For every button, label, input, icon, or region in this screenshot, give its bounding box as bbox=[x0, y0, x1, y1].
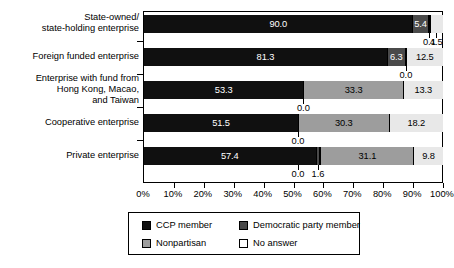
legend-label-nonpartisan: Nonpartisan bbox=[156, 238, 206, 248]
x-axis-tick-label: 20% bbox=[193, 189, 212, 199]
legend-swatch-ccp-member bbox=[142, 221, 151, 230]
legend-item-nonpartisan: Nonpartisan bbox=[142, 238, 206, 248]
x-axis-tick-label: 100% bbox=[430, 189, 454, 199]
callout-value-label: 0.0 bbox=[399, 70, 412, 80]
bar-segment: 33.3 bbox=[303, 81, 403, 99]
segment-value-label: 9.8 bbox=[422, 151, 435, 161]
bar-segment: 53.3 bbox=[144, 81, 303, 99]
y-axis-tick bbox=[137, 74, 144, 75]
y-axis-tick bbox=[137, 140, 144, 141]
chart-legend: CCP member Democratic party member Nonpa… bbox=[128, 212, 360, 255]
bar-segment: 12.5 bbox=[406, 48, 443, 66]
legend-label-democratic-party-member: Democratic party member bbox=[253, 220, 360, 230]
category-label: State-owned/ state-holding enterprise bbox=[42, 12, 139, 34]
bar-segment: 51.5 bbox=[144, 114, 298, 132]
callout-value-label: 4.5 bbox=[430, 37, 443, 47]
bar-segment: 30.3 bbox=[298, 114, 389, 132]
x-axis-tick bbox=[234, 183, 235, 188]
segment-value-label: 31.1 bbox=[359, 151, 377, 161]
segment-value-label: 81.3 bbox=[257, 52, 275, 62]
legend-label-no-answer: No answer bbox=[253, 238, 297, 248]
category-label: Cooperative enterprise bbox=[45, 117, 139, 128]
bar-segment: 9.8 bbox=[413, 147, 442, 165]
x-axis-tick-label: 70% bbox=[343, 189, 362, 199]
x-axis-tick-label: 50% bbox=[283, 189, 302, 199]
bar-segment: 90.0 bbox=[144, 15, 412, 33]
x-axis-tick-label: 40% bbox=[253, 189, 272, 199]
bar-segment: 5.4 bbox=[412, 15, 428, 33]
bar-segment: 13.3 bbox=[403, 81, 443, 99]
bar-segment: 6.3 bbox=[387, 48, 406, 66]
legend-swatch-no-answer bbox=[239, 239, 248, 248]
callout-value-label: 0.0 bbox=[297, 103, 310, 113]
x-axis-tick bbox=[204, 183, 205, 188]
stacked-bar-chart: State-owned/ state-holding enterprise90.… bbox=[0, 0, 454, 268]
segment-value-label: 33.3 bbox=[345, 85, 363, 95]
segment-value-label: 90.0 bbox=[269, 19, 287, 29]
x-axis-tick bbox=[353, 183, 354, 188]
y-axis-tick bbox=[137, 107, 144, 108]
x-axis-tick bbox=[323, 183, 324, 188]
bar-segment: 31.1 bbox=[320, 147, 413, 165]
callout-value-label: 0.0 bbox=[292, 169, 305, 179]
x-axis-tick-label: 80% bbox=[373, 189, 392, 199]
bar-row: 53.333.313.3 bbox=[144, 81, 443, 99]
legend-item-ccp-member: CCP member bbox=[142, 220, 212, 230]
x-axis-tick bbox=[443, 183, 444, 188]
segment-value-label: 57.4 bbox=[221, 151, 239, 161]
segment-value-label: 30.3 bbox=[335, 118, 353, 128]
bar-row: 90.05.4 bbox=[144, 15, 443, 33]
bar-row: 81.36.312.5 bbox=[144, 48, 443, 66]
x-axis-tick bbox=[264, 183, 265, 188]
callout-value-label: 1.6 bbox=[312, 169, 325, 179]
x-axis-tick bbox=[294, 183, 295, 188]
category-label: Enterprise with fund from Hong Kong, Mac… bbox=[36, 73, 139, 106]
segment-value-label: 5.4 bbox=[414, 19, 427, 29]
segment-value-label: 13.3 bbox=[414, 85, 432, 95]
legend-item-no-answer: No answer bbox=[239, 238, 297, 248]
segment-value-label: 53.3 bbox=[215, 85, 233, 95]
bar-segment bbox=[430, 15, 443, 33]
segment-value-label: 12.5 bbox=[416, 52, 434, 62]
callout-value-label: 0.0 bbox=[292, 136, 305, 146]
x-axis-tick-label: 0% bbox=[136, 189, 149, 199]
x-axis-tick bbox=[383, 183, 384, 188]
bar-row: 57.431.19.8 bbox=[144, 147, 443, 165]
bar-segment: 18.2 bbox=[389, 114, 443, 132]
x-axis-tick bbox=[174, 183, 175, 188]
segment-value-label: 6.3 bbox=[390, 52, 403, 62]
legend-label-ccp-member: CCP member bbox=[156, 220, 212, 230]
category-label: Private enterprise bbox=[66, 150, 139, 161]
bar-segment: 81.3 bbox=[144, 48, 387, 66]
x-axis-tick bbox=[413, 183, 414, 188]
segment-value-label: 51.5 bbox=[212, 118, 230, 128]
x-axis-labels: 0%10%20%30%40%50%60%70%80%90%100% bbox=[143, 189, 443, 201]
legend-item-democratic-party-member: Democratic party member bbox=[239, 220, 360, 230]
bar-segment: 57.4 bbox=[144, 147, 316, 165]
x-axis-tick-label: 90% bbox=[403, 189, 422, 199]
bar-row: 51.530.318.2 bbox=[144, 114, 443, 132]
legend-swatch-nonpartisan bbox=[142, 239, 151, 248]
x-axis-tick-label: 30% bbox=[223, 189, 242, 199]
segment-value-label: 18.2 bbox=[407, 118, 425, 128]
x-axis-tick-label: 10% bbox=[164, 189, 183, 199]
legend-swatch-democratic-party-member bbox=[239, 221, 248, 230]
x-axis-tick-label: 60% bbox=[313, 189, 332, 199]
y-axis-tick bbox=[137, 41, 144, 42]
category-label: Foreign funded enterprise bbox=[33, 51, 139, 62]
